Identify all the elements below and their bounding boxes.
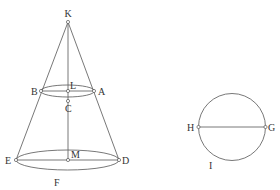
point-A xyxy=(92,89,95,92)
label-H: H xyxy=(187,122,194,133)
label-G: G xyxy=(268,122,275,133)
label-D: D xyxy=(122,155,129,166)
geometry-diagram: K B A L C E D M F H G I xyxy=(0,0,280,190)
point-M xyxy=(66,158,69,161)
label-E: E xyxy=(5,155,11,166)
label-C: C xyxy=(65,103,72,114)
label-A: A xyxy=(98,86,106,97)
label-L: L xyxy=(70,80,76,91)
point-D xyxy=(117,158,120,161)
circle-figure: H G I xyxy=(187,94,275,172)
point-E xyxy=(14,158,17,161)
cone: K B A L C E D M F xyxy=(5,8,129,188)
point-G xyxy=(264,125,267,128)
label-K: K xyxy=(65,8,73,19)
point-K xyxy=(66,20,69,23)
label-M: M xyxy=(71,149,80,160)
point-H xyxy=(197,125,200,128)
label-I: I xyxy=(209,160,212,171)
label-B: B xyxy=(31,86,38,97)
point-B xyxy=(39,89,42,92)
label-F: F xyxy=(54,177,60,188)
